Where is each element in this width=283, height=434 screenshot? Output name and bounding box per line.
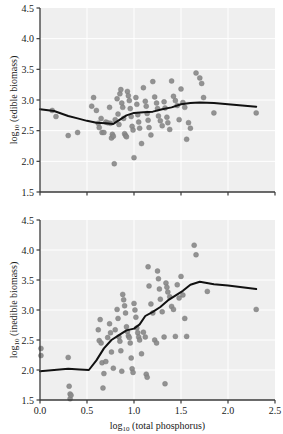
data-point: [165, 290, 170, 295]
data-point: [111, 366, 116, 371]
data-point: [156, 113, 161, 118]
data-point: [133, 95, 138, 100]
data-point: [154, 341, 159, 346]
data-point: [115, 307, 120, 312]
data-point: [127, 98, 132, 103]
data-point: [66, 355, 71, 360]
data-point: [175, 282, 180, 287]
two-panel-scatter-chart: 1.52.02.53.03.54.04.5log10 (edible bioma…: [0, 0, 283, 434]
y-tick-label: 4.5: [22, 3, 35, 14]
data-point: [184, 334, 189, 339]
data-point: [137, 338, 142, 343]
data-point: [99, 341, 104, 346]
data-point: [127, 335, 132, 340]
y-tick-label: 3.5: [22, 275, 35, 286]
data-point: [96, 327, 101, 332]
data-point: [108, 330, 113, 335]
data-point: [121, 297, 126, 302]
data-point: [211, 110, 216, 115]
data-point: [179, 274, 184, 279]
data-point: [158, 297, 163, 302]
data-point: [111, 134, 116, 139]
data-point: [157, 287, 162, 292]
x-tick-label: 0.5: [81, 405, 94, 416]
data-point: [89, 104, 94, 109]
data-point: [141, 330, 146, 335]
data-point: [184, 137, 189, 142]
y-axis-title-base: log: [8, 345, 19, 358]
data-point: [192, 243, 197, 248]
data-point: [182, 316, 187, 321]
y-tick-label: 3.5: [22, 64, 35, 75]
data-point: [254, 110, 259, 115]
data-point: [117, 339, 122, 344]
data-point: [107, 321, 112, 326]
data-point: [162, 335, 167, 340]
y-tick-label: 1.5: [22, 187, 35, 198]
data-point: [186, 120, 191, 125]
data-point: [201, 95, 206, 100]
y-tick-label: 4.5: [22, 215, 35, 226]
data-point: [116, 122, 121, 127]
data-point: [143, 335, 148, 340]
data-point: [146, 118, 151, 123]
data-point: [122, 303, 127, 308]
data-point: [94, 108, 99, 113]
data-point: [169, 78, 174, 83]
data-point: [112, 161, 117, 166]
data-point: [123, 311, 128, 316]
data-point: [133, 315, 138, 320]
data-point: [145, 375, 150, 380]
data-point: [160, 309, 165, 314]
data-point: [116, 316, 121, 321]
data-point: [150, 79, 155, 84]
data-point: [158, 118, 163, 123]
x-tick-label: 1.0: [128, 405, 141, 416]
data-point: [171, 307, 176, 312]
data-point: [148, 302, 153, 307]
data-point: [167, 127, 172, 132]
data-point: [118, 348, 123, 353]
data-point: [188, 126, 193, 131]
data-point: [141, 85, 146, 90]
data-point: [156, 276, 161, 281]
y-tick-label: 3.0: [22, 95, 35, 106]
y-axis-title-base: log: [8, 132, 19, 145]
y-tick-label: 2.5: [22, 335, 35, 346]
x-axis-title-base: log: [110, 420, 123, 431]
data-point: [105, 335, 110, 340]
data-point: [148, 132, 153, 137]
data-point: [103, 359, 108, 364]
data-point: [136, 120, 141, 125]
x-tick-label: 2.0: [222, 405, 235, 416]
data-point: [165, 120, 170, 125]
figure-container: 1.52.02.53.03.54.04.5log10 (edible bioma…: [0, 0, 283, 434]
panel-bottom: 1.52.02.53.03.54.04.50.00.51.01.52.02.5l…: [8, 215, 282, 434]
data-point: [147, 284, 152, 289]
data-point: [101, 130, 106, 135]
data-point: [197, 75, 202, 80]
data-point: [67, 384, 72, 389]
data-point: [162, 99, 167, 104]
data-point: [126, 93, 131, 98]
data-point: [132, 301, 137, 306]
data-point: [154, 101, 159, 106]
data-point: [118, 87, 123, 92]
y-tick-label: 4.0: [22, 33, 35, 44]
data-point: [163, 381, 168, 386]
data-point: [115, 96, 120, 101]
data-point: [132, 308, 137, 313]
data-point: [194, 252, 199, 257]
data-point: [160, 123, 165, 128]
data-point: [124, 134, 129, 139]
data-point: [97, 125, 102, 130]
data-point: [75, 130, 80, 135]
data-point: [131, 128, 136, 133]
data-point: [128, 341, 133, 346]
data-point: [177, 117, 182, 122]
data-point: [180, 293, 185, 298]
data-point: [137, 126, 142, 131]
data-point: [131, 370, 136, 375]
data-point: [107, 105, 112, 110]
y-tick-label: 1.5: [22, 395, 35, 406]
